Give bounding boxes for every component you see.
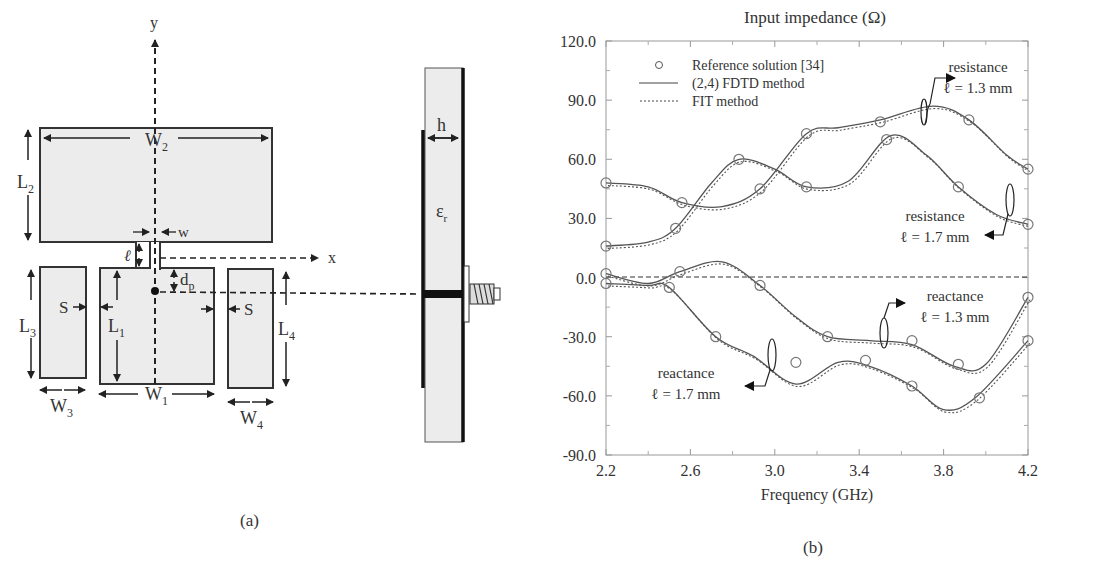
annotation-reactance-1-7: reactance ℓ = 1.7 mm (652, 339, 776, 402)
reference-points (601, 115, 1033, 403)
left-parasitic-patch (40, 267, 86, 378)
chart-title: Input impedance (Ω) (744, 8, 886, 27)
s-right-label: S (244, 300, 253, 319)
x-axis-label: x (328, 249, 336, 266)
x-tick-label: 4.2 (1018, 462, 1038, 479)
feed-point (151, 287, 159, 295)
svg-text:ℓ = 1.7 mm: ℓ = 1.7 mm (901, 229, 970, 245)
x-axis-title: Frequency (GHz) (761, 486, 873, 504)
x-tick-label: 2.2 (596, 462, 616, 479)
x-axis-ticks: 2.22.63.03.43.84.2 (596, 41, 1038, 479)
coax-connector-icon (470, 284, 500, 304)
svg-text:W4: W4 (240, 408, 263, 432)
x-tick-label: 3.4 (849, 462, 869, 479)
y-axis-ticks: 120.090.060.030.00.0-30.0-60.0-90.0 (560, 33, 1028, 464)
side-view-substrate: h εr (423, 68, 500, 442)
x-tick-label: 3.8 (934, 462, 954, 479)
y-tick-label: -90.0 (563, 447, 596, 464)
y-tick-label: -60.0 (563, 388, 596, 405)
y-tick-label: 30.0 (568, 210, 596, 227)
svg-text:W1: W1 (145, 384, 168, 408)
caption-a: (a) (240, 511, 259, 531)
x-tick-label: 3.0 (765, 462, 785, 479)
svg-text:reactance: reactance (658, 365, 715, 381)
y-tick-label: 0.0 (576, 270, 596, 287)
svg-text:ℓ = 1.3 mm: ℓ = 1.3 mm (944, 80, 1013, 96)
legend-item-reference: Reference solution [34] (692, 58, 824, 73)
svg-text:ℓ = 1.7 mm: ℓ = 1.7 mm (652, 386, 721, 402)
legend-item-fit: FIT method (692, 94, 758, 109)
svg-text:ℓ = 1.3 mm: ℓ = 1.3 mm (921, 309, 990, 325)
y-tick-label: 120.0 (560, 33, 596, 50)
legend-item-fdtd: (2,4) FDTD method (692, 76, 804, 92)
impedance-chart: Input impedance (Ω) 120.090.060.030.00.0… (540, 0, 1104, 581)
antenna-geometry-diagram: y x W2 L2 w ℓ dp L3 L1 L4 S S W3 W1 W4 (0, 0, 540, 581)
w-label: w (178, 224, 189, 240)
s-left-label: S (59, 298, 68, 317)
svg-text:L3: L3 (19, 316, 36, 340)
antenna-geometry-panel: y x W2 L2 w ℓ dp L3 L1 L4 S S W3 W1 W4 (0, 0, 540, 581)
L2-label: L2 (17, 172, 34, 196)
legend-circle-icon (656, 62, 663, 69)
right-parasitic-patch (228, 269, 273, 388)
reference-point-marker (791, 357, 801, 367)
svg-text:resistance: resistance (948, 59, 1007, 75)
reference-point-marker (861, 355, 871, 365)
annotation-reactance-1-3: reactance ℓ = 1.3 mm (880, 288, 990, 348)
y-axis-label: y (150, 14, 158, 32)
impedance-chart-panel: Input impedance (Ω) 120.090.060.030.00.0… (540, 0, 1104, 581)
h-label: h (437, 115, 446, 135)
legend: Reference solution [34] (2,4) FDTD metho… (639, 58, 824, 109)
svg-text:reactance: reactance (927, 288, 984, 304)
svg-text:resistance: resistance (905, 208, 964, 224)
y-tick-label: 60.0 (568, 151, 596, 168)
ell-label: ℓ (124, 247, 131, 264)
y-tick-label: 90.0 (568, 92, 596, 109)
svg-text:W3: W3 (50, 396, 73, 420)
y-tick-label: -30.0 (563, 329, 596, 346)
caption-b: (b) (803, 538, 823, 558)
x-tick-label: 2.6 (680, 462, 700, 479)
svg-text:L4: L4 (278, 319, 295, 343)
